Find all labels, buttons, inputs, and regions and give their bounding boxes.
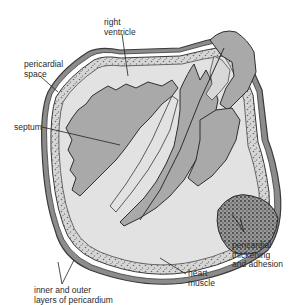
leader-layers-2 bbox=[62, 260, 74, 284]
label-pericardial-space: pericardial space bbox=[24, 60, 63, 79]
label-heart-muscle: heart muscle bbox=[188, 269, 215, 288]
leader-layers-1 bbox=[58, 262, 62, 284]
label-pericardial-thickening: pericardial thickening and adhesion bbox=[232, 241, 283, 270]
label-septum: septum bbox=[14, 123, 42, 133]
label-pericardium-layers: inner and outer layers of pericardium bbox=[34, 286, 113, 305]
label-right-ventricle: right ventricle bbox=[104, 18, 136, 37]
